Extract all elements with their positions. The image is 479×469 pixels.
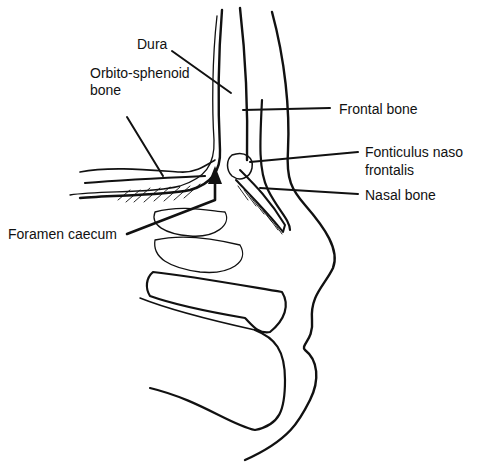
leader-nasal-bone [260, 188, 358, 194]
label-fonticulus-line2: frontalis [365, 162, 414, 179]
label-foramen-caecum: Foramen caecum [8, 226, 117, 243]
leader-fonticulus [250, 152, 358, 162]
orbito-sphenoid-lower [85, 176, 205, 183]
frontal-bone-inner [240, 8, 247, 160]
label-nasal-bone: Nasal bone [365, 187, 436, 204]
anatomy-diagram: Dura Orbito-sphenoid bone Frontal bone F… [0, 0, 479, 469]
leader-orbito-sphenoid [127, 117, 163, 176]
label-fonticulus-line1: Fonticulus naso [365, 144, 463, 161]
foramen-caecum-arrowhead [208, 166, 222, 184]
superior-turbinate [154, 208, 227, 236]
leader-frontal-bone [243, 108, 330, 110]
fonticulus-blob [228, 153, 253, 178]
nasal-floor [140, 298, 255, 330]
orbito-sphenoid-bone [80, 160, 215, 172]
inferior-turbinate [147, 272, 286, 332]
label-dura: Dura [137, 36, 167, 53]
middle-turbinate [155, 237, 243, 272]
label-orbito-sphenoid-line2: bone [90, 82, 121, 99]
palate [150, 330, 285, 430]
label-orbito-sphenoid-line1: Orbito-sphenoid [90, 65, 190, 82]
label-frontal-bone: Frontal bone [339, 101, 418, 118]
skin-profile [245, 12, 335, 460]
nasal-bone [236, 170, 285, 232]
